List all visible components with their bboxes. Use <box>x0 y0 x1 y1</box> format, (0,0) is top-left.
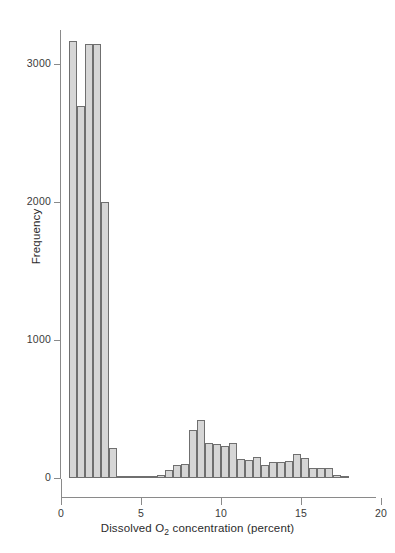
x-axis-title: Dissolved O2 concentration (percent) <box>0 522 395 539</box>
histogram-bar <box>205 443 213 478</box>
histogram-bar <box>213 444 221 478</box>
x-axis-tick-label: 0 <box>41 508 81 519</box>
histogram-bar <box>253 457 261 478</box>
x-axis-riser <box>61 479 62 498</box>
x-axis-tick-label: 20 <box>361 508 395 519</box>
plot-area <box>61 30 381 478</box>
histogram-bar <box>333 475 341 478</box>
histogram-bar <box>165 470 173 478</box>
histogram-bar <box>69 41 77 478</box>
x-axis-tick <box>221 498 222 505</box>
histogram-bar <box>237 459 245 478</box>
y-axis-tick-label: 2000 <box>3 196 51 207</box>
x-axis-title-before: Dissolved O <box>101 522 165 534</box>
histogram-bar <box>325 468 333 478</box>
histogram-bar <box>285 461 293 478</box>
histogram-bar <box>341 476 349 478</box>
histogram-bar <box>157 475 165 478</box>
y-axis-spine <box>60 30 61 479</box>
y-axis-tick-label: 0 <box>3 472 51 483</box>
x-axis-tick <box>61 498 62 505</box>
histogram-bar <box>101 202 109 478</box>
y-axis-title: Frequency <box>30 177 43 297</box>
histogram-bar <box>269 462 277 478</box>
x-axis-spine <box>61 497 376 498</box>
histogram-bar <box>181 464 189 478</box>
y-axis-tick <box>54 340 61 341</box>
histogram-figure: 0100020003000 05101520 Dissolved O2 conc… <box>0 0 395 553</box>
histogram-bar <box>133 476 141 478</box>
x-axis-tick-label: 15 <box>281 508 321 519</box>
histogram-bar <box>245 460 253 478</box>
histogram-bar <box>125 476 133 478</box>
histogram-bar <box>221 446 229 478</box>
histogram-bar <box>77 106 85 478</box>
x-axis-tick <box>301 498 302 505</box>
histogram-bar <box>197 420 205 478</box>
x-axis-tick <box>381 498 382 505</box>
histogram-bar <box>173 465 181 478</box>
y-axis-tick <box>54 64 61 65</box>
histogram-bar <box>109 448 117 478</box>
histogram-bar <box>189 430 197 478</box>
histogram-bar <box>301 458 309 478</box>
histogram-bar <box>293 454 301 478</box>
histogram-bar <box>309 468 317 478</box>
x-axis-tick-label: 5 <box>121 508 161 519</box>
histogram-bar <box>317 468 325 478</box>
histogram-bar <box>149 476 157 478</box>
histogram-bar <box>261 465 269 478</box>
histogram-bar <box>141 476 149 478</box>
y-axis-tick <box>54 478 61 479</box>
histogram-bar <box>229 443 237 478</box>
y-axis-tick-label: 1000 <box>3 334 51 345</box>
x-axis-tick-label: 10 <box>201 508 241 519</box>
x-axis-tick <box>141 498 142 505</box>
histogram-bar <box>277 462 285 478</box>
y-axis-tick-label: 3000 <box>3 58 51 69</box>
y-axis-tick <box>54 202 61 203</box>
histogram-bar <box>117 476 125 478</box>
histogram-bar <box>93 44 101 478</box>
x-axis-title-after: concentration (percent) <box>169 522 294 534</box>
histogram-bar <box>85 44 93 478</box>
